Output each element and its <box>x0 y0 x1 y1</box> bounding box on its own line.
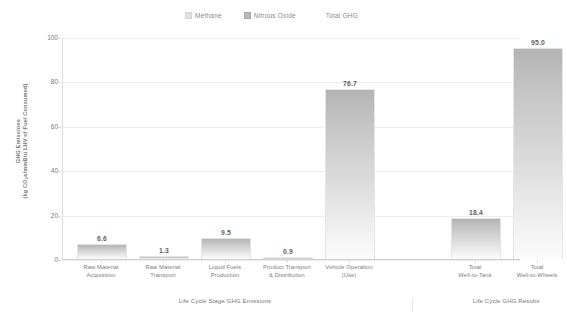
bar-series: 6.61.39.50.976.718.495.0 <box>63 38 520 259</box>
bar-value-label: 76.7 <box>343 80 357 87</box>
bar-slot[interactable]: 6.6 <box>77 38 127 259</box>
group-title: Life Cycle GHG Results <box>426 298 567 304</box>
bar-value-label: 0.9 <box>283 248 293 255</box>
bar[interactable] <box>77 244 127 259</box>
y-tick-label: 20 <box>18 212 58 219</box>
y-tick-label: 80 <box>18 78 58 85</box>
plot-area-wrapper: 6.61.39.50.976.718.495.0 <box>62 38 520 260</box>
bar[interactable] <box>201 238 251 259</box>
y-tick-label: 60 <box>18 123 58 130</box>
y-tick-mark <box>58 38 61 39</box>
bar[interactable] <box>325 89 375 259</box>
bar-value-label: 1.3 <box>159 247 169 254</box>
chart-legend: Methane Nitrous Oxide Total GHG <box>0 12 543 19</box>
y-tick-mark <box>58 127 61 128</box>
bar-slot[interactable]: 1.3 <box>139 38 189 259</box>
methane-swatch-icon <box>185 12 192 19</box>
plot-area: 6.61.39.50.976.718.495.0 <box>62 38 520 260</box>
bar-slot[interactable]: 76.7 <box>325 38 375 259</box>
legend-item-methane[interactable]: Methane <box>185 12 222 19</box>
bar-slot[interactable]: 9.5 <box>201 38 251 259</box>
legend-item-total-ghg[interactable]: Total GHG <box>318 12 358 19</box>
y-tick-label: 40 <box>18 167 58 174</box>
y-tick-label: 100 <box>18 34 58 41</box>
bar-value-label: 18.4 <box>469 209 483 216</box>
y-tick-mark <box>58 82 61 83</box>
x-label-line2: Well-to-Wheels <box>501 271 567 279</box>
bar[interactable] <box>513 48 563 259</box>
y-axis-ticks: 020406080100 <box>14 38 58 260</box>
y-tick-label: 0 <box>18 256 58 263</box>
group-title: Life Cycle Stage GHG Emissions <box>145 298 305 304</box>
bar-slot[interactable]: 0.9 <box>263 38 313 259</box>
x-axis-labels: Raw MaterialAcquisitionRaw MaterialTrans… <box>62 263 520 289</box>
bar-slot[interactable]: 95.0 <box>513 38 563 259</box>
y-tick-mark <box>58 171 61 172</box>
total-ghg-swatch-icon <box>318 13 323 18</box>
group-separator <box>412 298 413 312</box>
legend-label-methane: Methane <box>195 12 222 19</box>
bar-slot[interactable]: 18.4 <box>451 38 501 259</box>
bar-value-label: 6.6 <box>97 235 107 242</box>
y-tick-mark <box>58 260 61 261</box>
x-axis-category-label: TotalWell-to-Wheels <box>501 263 567 279</box>
x-label-line2: (Use) <box>313 271 385 279</box>
bar-value-label: 95.0 <box>531 39 545 46</box>
legend-item-nitrous-oxide[interactable]: Nitrous Oxide <box>244 12 296 19</box>
x-label-line1: Total <box>501 263 567 271</box>
legend-label-nitrous-oxide: Nitrous Oxide <box>254 12 296 19</box>
y-tick-mark <box>58 216 61 217</box>
x-axis-category-label: Vehicle Operation(Use) <box>313 263 385 279</box>
bar[interactable] <box>139 256 189 259</box>
group-titles: Life Cycle Stage GHG EmissionsLife Cycle… <box>62 298 520 312</box>
legend-label-total-ghg: Total GHG <box>326 12 358 19</box>
bar[interactable] <box>451 218 501 259</box>
bar[interactable] <box>263 257 313 259</box>
x-label-line1: Vehicle Operation <box>313 263 385 271</box>
nitrous-oxide-swatch-icon <box>244 12 251 19</box>
bar-value-label: 9.5 <box>221 229 231 236</box>
